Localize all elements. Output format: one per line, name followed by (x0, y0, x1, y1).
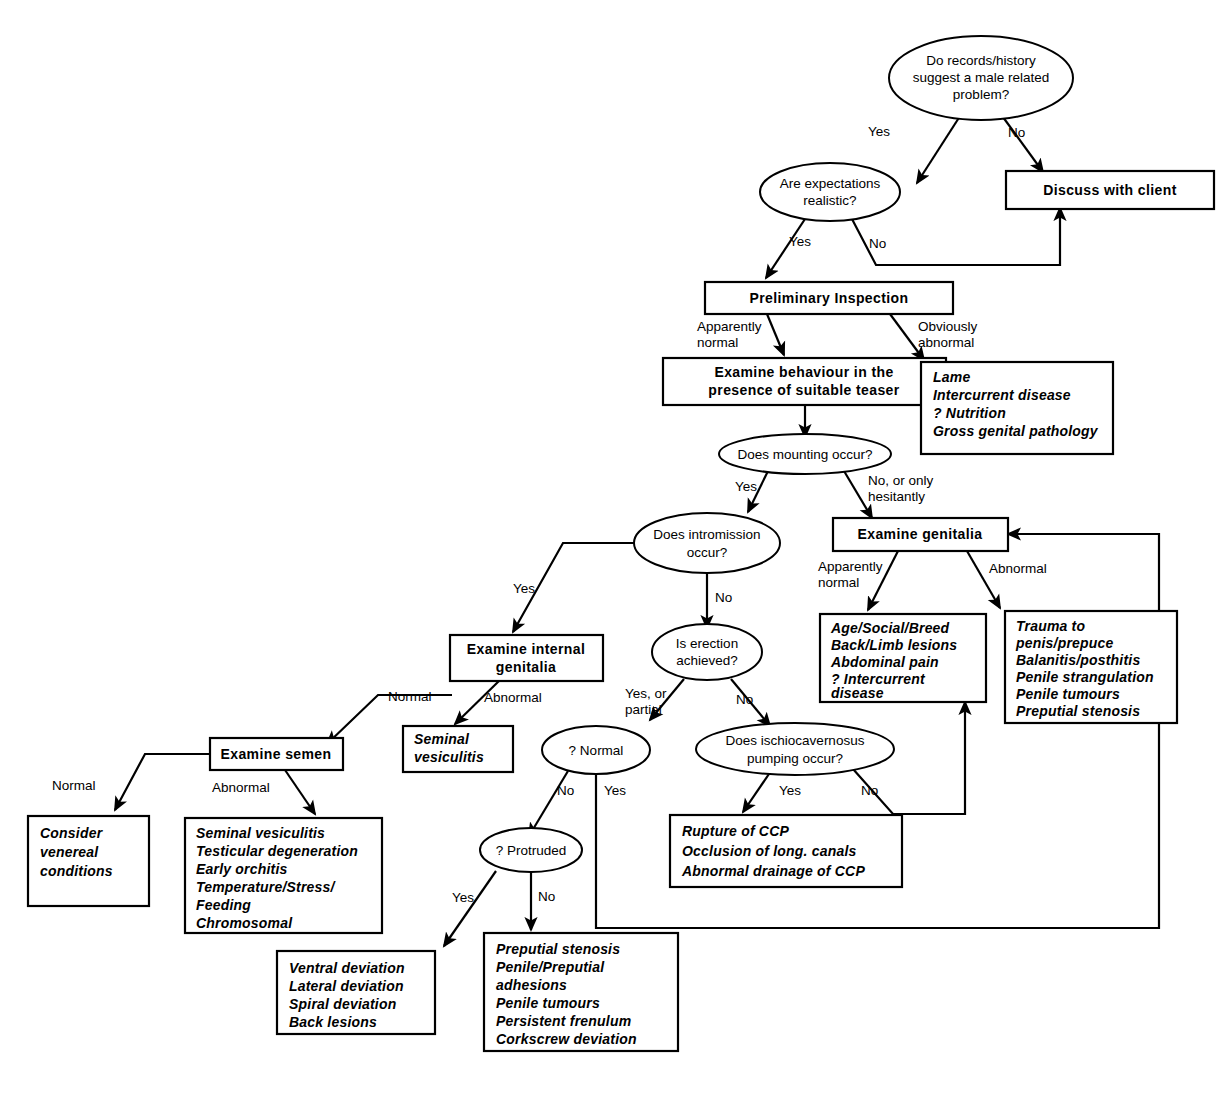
list-ccp-line1: Rupture of CCP (682, 823, 789, 839)
edge-label-protruded-yes: Yes (452, 890, 474, 905)
node-list-obviously-abnormal[interactable]: Lame Intercurrent disease ? Nutrition Gr… (921, 362, 1113, 454)
exam-genitalia-label: Examine genitalia (857, 526, 982, 542)
node-preliminary-inspection[interactable]: Preliminary Inspection (705, 282, 953, 314)
node-q-normal[interactable]: ? Normal (542, 726, 650, 774)
edge-label-records-no: No (1008, 125, 1025, 140)
edge-label-normal-yes: Yes (604, 783, 626, 798)
list-semen-abn-line5: Feeding (196, 897, 251, 913)
node-q-erection[interactable]: Is erection achieved? (652, 624, 762, 680)
exam-internal-line2: genitalia (496, 659, 556, 675)
node-q-intromission[interactable]: Does intromission occur? (634, 513, 780, 573)
exam-internal-line1: Examine internal (467, 641, 585, 657)
list-preputial-line1: Preputial stenosis (496, 941, 620, 957)
edge-label-protruded-no: No (538, 889, 555, 904)
q-ischio-line2: pumping occur? (747, 751, 843, 766)
edge-label-prelim-abnormal-1: Obviously (918, 319, 978, 334)
flowchart-page: Do records/history suggest a male relate… (0, 0, 1232, 1119)
list-abn-gen-line4: Penile strangulation (1016, 669, 1154, 685)
node-examine-behaviour[interactable]: Examine behaviour in the presence of sui… (663, 358, 946, 405)
edge-label-semen-normal: Normal (52, 778, 96, 793)
node-q-expectations[interactable]: Are expectations realistic? (760, 163, 900, 221)
list-obvious-line1: Lame (933, 369, 970, 385)
node-discuss-with-client[interactable]: Discuss with client (1006, 171, 1214, 209)
list-abn-gen-line5: Penile tumours (1016, 686, 1120, 702)
edge-label-prelim-normal-1: Apparently (697, 319, 762, 334)
q-mounting-label: Does mounting occur? (737, 447, 872, 462)
edge-label-normal-no: No (557, 783, 574, 798)
node-list-venereal[interactable]: Consider venereal conditions (28, 816, 149, 906)
edge-label-prelim-normal-2: normal (697, 335, 738, 350)
node-examine-internal-genitalia[interactable]: Examine internal genitalia (450, 635, 603, 681)
flowchart-canvas: Do records/history suggest a male relate… (0, 0, 1232, 1119)
list-abn-gen-line2: penis/prepuce (1015, 635, 1114, 651)
list-obvious-line4: Gross genital pathology (933, 423, 1099, 439)
edge-label-mounting-no-1: No, or only (868, 473, 934, 488)
list-semen-abn-line6: Chromosomal (196, 915, 293, 931)
node-examine-semen[interactable]: Examine semen (210, 738, 343, 770)
node-list-genitalia-normal[interactable]: Age/Social/Breed Back/Limb lesions Abdom… (820, 614, 986, 702)
discuss-label: Discuss with client (1043, 182, 1177, 198)
list-semen-abn-line1: Seminal vesiculitis (196, 825, 325, 841)
prelim-label: Preliminary Inspection (750, 290, 909, 306)
edge-label-mounting-no-2: hesitantly (868, 489, 925, 504)
edge-ischio-yes (743, 771, 771, 812)
node-list-semen-abnormal[interactable]: Seminal vesiculitis Testicular degenerat… (185, 818, 382, 933)
list-abn-gen-line3: Balanitis/posthitis (1016, 652, 1140, 668)
node-list-deviation[interactable]: Ventral deviation Lateral deviation Spir… (277, 951, 435, 1034)
edge-label-mounting-yes: Yes (735, 479, 757, 494)
node-list-preputial[interactable]: Preputial stenosis Penile/Preputial adhe… (484, 933, 678, 1051)
edge-semen-abnormal (285, 770, 315, 814)
edge-label-expect-yes: Yes (789, 234, 811, 249)
list-deviation-line1: Ventral deviation (289, 960, 405, 976)
sem-ves-line1: Seminal (414, 731, 470, 747)
edge-label-prelim-abnormal-2: abnormal (918, 335, 974, 350)
list-apparently-line5: disease (831, 685, 884, 701)
node-list-ccp[interactable]: Rupture of CCP Occlusion of long. canals… (670, 815, 902, 887)
edge-labels-layer: Yes No Yes No Apparently normal Obviousl… (52, 124, 1047, 905)
node-q-mounting[interactable]: Does mounting occur? (719, 434, 891, 474)
q-intromission-line2: occur? (687, 545, 728, 560)
list-abn-gen-line1: Trauma to (1016, 618, 1085, 634)
edge-records-yes (917, 113, 962, 183)
exam-behaviour-line2: presence of suitable teaser (708, 382, 899, 398)
edge-prelim-normal (767, 314, 784, 355)
q-records-line2: suggest a male related (913, 70, 1050, 85)
q-records-line1: Do records/history (926, 53, 1036, 68)
edge-genitalia-abnormal (967, 551, 1000, 608)
exam-semen-label: Examine semen (220, 746, 331, 762)
edge-label-ischio-no: No (861, 783, 878, 798)
sem-ves-line2: vesiculitis (414, 749, 484, 765)
q-protruded-label: ? Protruded (496, 843, 567, 858)
list-semen-abn-line3: Early orchitis (196, 861, 288, 877)
edge-label-intromission-no: No (715, 590, 732, 605)
node-seminal-vesiculitis[interactable]: Seminal vesiculitis (403, 726, 513, 772)
node-q-records[interactable]: Do records/history suggest a male relate… (889, 36, 1073, 120)
list-apparently-line2: Back/Limb lesions (831, 637, 957, 653)
list-preputial-line5: Persistent frenulum (496, 1013, 631, 1029)
q-erection-line1: Is erection (676, 636, 738, 651)
list-obvious-line3: ? Nutrition (933, 405, 1006, 421)
q-intromission-line1: Does intromission (653, 527, 760, 542)
list-venereal-line3: conditions (40, 863, 113, 879)
q-expect-line1: Are expectations (780, 176, 881, 191)
edge-label-genitalia-normal-2: normal (818, 575, 859, 590)
list-deviation-line3: Spiral deviation (289, 996, 396, 1012)
node-list-genitalia-abnormal[interactable]: Trauma to penis/prepuce Balanitis/posthi… (1005, 611, 1177, 723)
list-semen-abn-line2: Testicular degeneration (196, 843, 358, 859)
edge-label-genitalia-normal-1: Apparently (818, 559, 883, 574)
list-preputial-line6: Corkscrew deviation (496, 1031, 637, 1047)
edge-label-internal-normal: Normal (388, 689, 432, 704)
list-apparently-line1: Age/Social/Breed (830, 620, 950, 636)
edge-label-genitalia-abnormal: Abnormal (989, 561, 1047, 576)
q-ischio-line1: Does ischiocavernosus (726, 733, 865, 748)
edge-label-erection-yes-1: Yes, or (625, 686, 667, 701)
node-q-ischiocavernosus[interactable]: Does ischiocavernosus pumping occur? (696, 723, 894, 775)
edge-normal-no (529, 771, 568, 836)
node-q-protruded[interactable]: ? Protruded (480, 828, 582, 872)
edge-records-no (1000, 113, 1043, 172)
list-apparently-line3: Abdominal pain (830, 654, 939, 670)
node-examine-genitalia[interactable]: Examine genitalia (833, 518, 1008, 551)
q-records-line3: problem? (953, 87, 1009, 102)
list-preputial-line3: adhesions (496, 977, 567, 993)
list-preputial-line2: Penile/Preputial (496, 959, 605, 975)
